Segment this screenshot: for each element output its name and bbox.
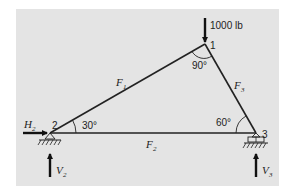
svg-text:2: 2 [153, 145, 157, 153]
load-label: 1000 lb [210, 20, 243, 31]
svg-text:2: 2 [32, 125, 36, 133]
svg-text:3: 3 [268, 171, 273, 179]
pin-support-icon [38, 133, 61, 145]
angle-60-label: 60° [216, 117, 231, 128]
node-1-label: 1 [210, 40, 216, 51]
angle-30-label: 30° [82, 120, 97, 131]
angle-90-label: 90° [192, 60, 207, 71]
svg-text:2: 2 [63, 171, 67, 179]
svg-text:F: F [145, 138, 153, 150]
node-2-label: 2 [52, 120, 58, 131]
f1-label: F 1 [115, 76, 127, 91]
reaction-v2-label: V 2 [56, 164, 67, 179]
f2-label: F 2 [145, 138, 157, 153]
truss-diagram: 1000 lb 1 2 3 30° 60° 90° F 1 F 2 F 3 [0, 0, 290, 196]
svg-text:3: 3 [240, 86, 245, 94]
svg-text:1: 1 [123, 83, 127, 91]
reaction-v3-label: V 3 [262, 164, 273, 179]
f3-label: F 3 [233, 79, 245, 94]
reaction-h2-label: H 2 [23, 118, 36, 133]
angle-arc-30 [73, 120, 77, 133]
angle-arc-60 [236, 116, 246, 133]
svg-text:F: F [233, 79, 241, 91]
member-f1 [50, 44, 205, 133]
node-3-label: 3 [262, 129, 268, 140]
svg-text:F: F [115, 76, 123, 88]
